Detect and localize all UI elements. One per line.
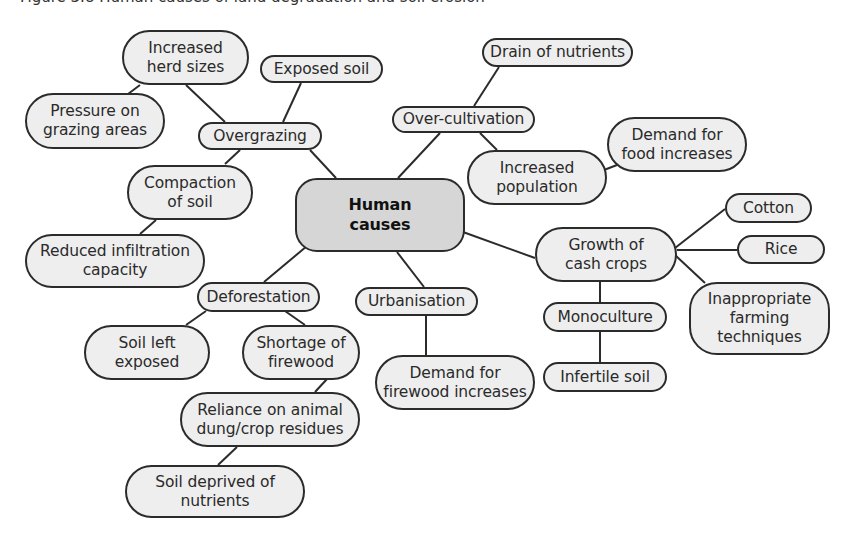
connector-human-cash [463,232,535,258]
node-defor: Deforestation [197,282,320,312]
node-shortage: Shortage of firewood [242,325,360,380]
node-cash: Growth of cash crops [535,227,677,282]
node-drain: Drain of nutrients [482,38,633,67]
node-mono: Monoculture [543,302,667,332]
node-rice: Rice [737,235,825,264]
node-infiltration: Reduced infiltration capacity [25,234,205,288]
node-compaction: Compaction of soil [127,165,253,220]
node-firewoodDemand: Demand for firewood increases [375,355,535,410]
connector-human-overgrazing [310,150,336,178]
connector-human-urban [397,252,424,287]
node-urban: Urbanisation [355,287,478,316]
central-node: Human causes [295,178,465,252]
node-infertile: Infertile soil [543,362,667,392]
connector-defor-shortage [285,311,305,325]
node-exposed: Exposed soil [260,55,383,83]
node-herd: Increased herd sizes [122,30,249,85]
node-foodDemand: Demand for food increases [607,117,747,172]
node-pressure: Pressure on grazing areas [25,93,165,149]
node-overcult: Over-cultivation [392,106,535,133]
node-population: Increased population [467,150,607,205]
connector-human-overcult [398,133,440,178]
node-soilLeft: Soil left exposed [84,325,210,380]
connector-human-defor [264,246,307,282]
node-overgrazing: Overgrazing [198,122,322,150]
node-deprived: Soil deprived of nutrients [125,465,305,518]
connector-shortage-reliance [315,379,327,392]
connector-cash-cotton [675,209,725,248]
connector-overgrazing-compaction [225,150,240,164]
connector-cash-farming [675,255,705,283]
node-reliance: Reliance on animal dung/crop residues [180,392,360,447]
node-farming: Inappropriate farming techniques [689,282,830,355]
connector-overgrazing-herd [186,85,225,122]
connector-overgrazing-exposed [283,83,301,122]
connector-reliance-deprived [218,447,237,465]
connector-defor-soilLeft [186,311,206,325]
node-cotton: Cotton [725,193,812,223]
connector-overcult-population [480,133,497,150]
connector-overcult-drain [474,67,499,106]
connector-compaction-infiltration [140,220,156,234]
